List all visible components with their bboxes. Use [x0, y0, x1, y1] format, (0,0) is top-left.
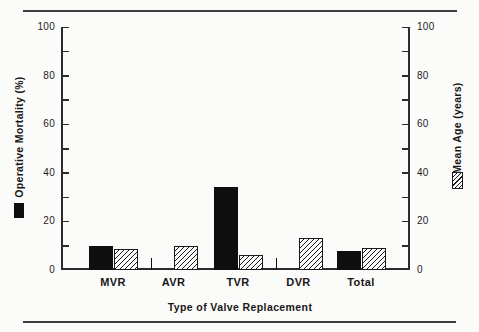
right-axis-tick-80 — [402, 75, 408, 77]
left-axis-tick-80 — [63, 75, 69, 77]
category-label-TVR: TVR — [208, 276, 268, 288]
left-axis-tick-60 — [63, 124, 69, 126]
category-label-AVR: AVR — [144, 276, 204, 288]
left-axis-tick-10 — [63, 245, 69, 247]
legend-swatch-mortality-solid — [14, 203, 24, 218]
right-axis-tick-50 — [402, 148, 408, 150]
bar-mortality-MVR — [89, 246, 113, 270]
bar-mortality-TVR — [214, 187, 238, 270]
right-axis-tick-70 — [402, 99, 408, 101]
figure-top-rule — [23, 10, 457, 12]
x-axis-title: Type of Valve Replacement — [110, 301, 370, 313]
bar-mean-age-DVR — [299, 238, 323, 270]
bar-mortality-zero-tick-DVR — [276, 258, 278, 270]
bar-chart-figure: 020406080100020406080100MVRAVRTVRDVRTota… — [0, 0, 479, 332]
left-axis-tick-label-40: 40 — [29, 167, 55, 179]
left-axis-tick-90 — [63, 51, 69, 53]
left-axis-tick-label-100: 100 — [29, 21, 55, 33]
right-axis-tick-90 — [402, 51, 408, 53]
right-axis-tick-label-100: 100 — [417, 21, 443, 33]
left-axis-tick-30 — [63, 197, 69, 199]
right-axis-tick-label-40: 40 — [417, 167, 443, 179]
left-axis-tick-70 — [63, 99, 69, 101]
left-axis-tick-label-60: 60 — [29, 118, 55, 130]
right-axis-tick-20 — [402, 221, 408, 223]
right-axis-tick-60 — [402, 124, 408, 126]
bar-mean-age-MVR — [114, 249, 138, 270]
right-axis-tick-label-80: 80 — [417, 70, 443, 82]
right-axis-tick-label-60: 60 — [417, 118, 443, 130]
left-axis-tick-label-0: 0 — [29, 264, 55, 276]
figure-bottom-rule — [23, 321, 456, 323]
category-label-MVR: MVR — [83, 276, 143, 288]
left-axis-title: Operative Mortality (%) — [13, 67, 27, 207]
bar-mean-age-Total — [362, 248, 386, 270]
right-axis-tick-label-20: 20 — [417, 215, 443, 227]
legend-swatch-age-hatched — [452, 172, 463, 189]
right-axis-tick-100 — [402, 27, 408, 29]
bar-mean-age-TVR — [239, 255, 263, 270]
right-axis-tick-10 — [402, 245, 408, 247]
right-axis-tick-40 — [402, 172, 408, 174]
right-axis-title: Mean Age (years) — [451, 68, 465, 188]
bar-mean-age-AVR — [174, 246, 198, 270]
bar-mortality-zero-tick-AVR — [151, 258, 153, 270]
left-axis-tick-40 — [63, 172, 69, 174]
category-label-DVR: DVR — [269, 276, 329, 288]
left-axis-tick-20 — [63, 221, 69, 223]
left-axis-tick-label-80: 80 — [29, 70, 55, 82]
left-axis-tick-50 — [63, 148, 69, 150]
category-label-Total: Total — [331, 276, 391, 288]
right-axis-tick-label-0: 0 — [417, 264, 443, 276]
bar-mortality-Total — [337, 251, 361, 270]
left-axis-tick-100 — [63, 27, 69, 29]
right-axis-tick-30 — [402, 197, 408, 199]
left-axis-tick-label-20: 20 — [29, 215, 55, 227]
